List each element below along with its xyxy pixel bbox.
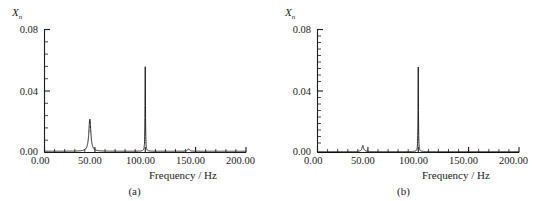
x-axis-title-b: Frequency / Hz bbox=[422, 170, 490, 181]
x-tick-label-a-200: 200.00 bbox=[226, 156, 255, 167]
x-axis-title-a: Frequency / Hz bbox=[149, 170, 217, 181]
x-tick-label-a-0: 0.00 bbox=[31, 156, 49, 167]
plot-area-a bbox=[0, 0, 269, 201]
x-tick-label-a-50: 50.00 bbox=[78, 156, 102, 167]
x-tick-label-b-200: 200.00 bbox=[499, 156, 528, 167]
y-major-ticks-b bbox=[318, 30, 324, 153]
panel-caption-b: (b) bbox=[269, 186, 538, 197]
chart-panel-b: Xn 0.08 0.04 0.00 bbox=[269, 0, 538, 201]
spectrum-curve-a bbox=[45, 67, 247, 152]
x-tick-label-a-100: 100.00 bbox=[126, 156, 155, 167]
chart-panel-a: Xn 0.08 0.04 0.00 bbox=[0, 0, 269, 201]
panel-caption-a: (a) bbox=[0, 186, 269, 197]
figure-root: Xn 0.08 0.04 0.00 bbox=[0, 0, 539, 201]
x-tick-label-b-150: 150.00 bbox=[449, 156, 478, 167]
spectrum-curve-b bbox=[318, 67, 520, 152]
x-tick-label-b-100: 100.00 bbox=[399, 156, 428, 167]
y-major-ticks-a bbox=[45, 30, 51, 153]
x-tick-label-b-0: 0.00 bbox=[304, 156, 322, 167]
plot-area-b bbox=[269, 0, 538, 201]
x-tick-label-a-150: 150.00 bbox=[176, 156, 205, 167]
x-tick-label-b-50: 50.00 bbox=[351, 156, 375, 167]
